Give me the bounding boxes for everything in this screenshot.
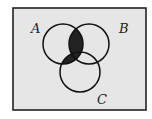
label-c: C bbox=[97, 92, 107, 107]
venn-diagram: A B C bbox=[0, 0, 152, 119]
label-a: A bbox=[30, 21, 40, 36]
label-b: B bbox=[118, 21, 129, 36]
